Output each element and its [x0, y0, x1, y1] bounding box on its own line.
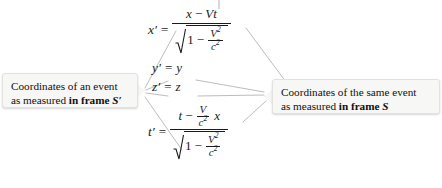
equation-x-equals: =	[160, 22, 172, 38]
callout-right: Coordinates of the same event as measure…	[272, 79, 440, 114]
callout-left-line2: as measured in frame S′	[11, 93, 130, 107]
radical-sign-icon	[173, 131, 184, 160]
equation-x-num-b: V	[205, 6, 213, 22]
equation-t-rad-den: c2	[207, 147, 220, 158]
equation-t-radical: 1 − V2 c2	[173, 131, 225, 160]
callout-right-line2: as measured in frame S	[281, 99, 432, 113]
equation-x-num-op: −	[192, 6, 205, 22]
equation-t-num-fraction: V c2	[197, 104, 210, 128]
equation-x-radical: 1 − V2 c2	[175, 25, 227, 54]
equation-z-rhs: z	[176, 79, 181, 95]
equation-t-num-frac-den-exp: 2	[203, 114, 207, 123]
equation-t-rad-num: V2	[206, 134, 220, 145]
equation-t-rad-num-exp: 2	[215, 131, 219, 140]
equation-x-prime: x′ = x − Vt	[148, 6, 298, 54]
equation-x-rad-fraction: V2 c2	[208, 28, 222, 52]
equation-x-rad-den-exp: 2	[216, 38, 220, 47]
equation-t-denominator: 1 − V2 c2	[170, 131, 228, 160]
lorentz-transformation-diagram: Coordinates of an event as measured in f…	[0, 0, 442, 188]
equation-t-num-frac-num: V	[197, 104, 208, 115]
equation-x-fraction-bar	[172, 23, 230, 24]
equation-t-num-frac-den: c2	[197, 117, 210, 128]
equation-t-lhs: t′	[148, 124, 158, 140]
equation-t-num-op: −	[182, 108, 195, 124]
equation-x-rad-num-exp: 2	[217, 25, 221, 34]
callout-right-line2-bold: in frame	[339, 100, 383, 112]
callout-right-frame-symbol: S	[382, 100, 388, 112]
equation-t-fraction-bar	[170, 129, 228, 130]
equation-x-fraction: x − Vt 1 −	[172, 6, 230, 54]
equation-t-rad-op: −	[192, 138, 205, 154]
equation-y-rhs: y	[176, 60, 182, 76]
equation-x-lhs: x′	[148, 22, 160, 38]
callout-left-line1: Coordinates of an event	[11, 79, 130, 93]
callout-left-frame-symbol: S′	[112, 94, 121, 106]
equation-z-lhs: z′	[152, 79, 163, 95]
equation-t-equals: =	[158, 124, 170, 140]
equation-t-num-trailing: x	[210, 108, 220, 124]
callout-right-line1: Coordinates of the same event	[281, 85, 432, 99]
callout-left-line2-prefix: as measured	[11, 94, 69, 106]
equation-x-rad-op: −	[194, 32, 207, 48]
callout-left: Coordinates of an event as measured in f…	[2, 73, 138, 108]
equation-x-rad-num: V2	[208, 28, 222, 39]
equation-y-lhs: y′	[152, 60, 164, 76]
equation-y-prime: y′ = y	[152, 60, 298, 76]
equation-y-equals: =	[164, 60, 176, 76]
callout-left-line2-bold: in frame	[69, 94, 113, 106]
equation-z-equals: =	[163, 79, 175, 95]
equation-x-denominator: 1 − V2 c2	[172, 25, 230, 54]
equation-x-num-c: t	[213, 6, 217, 22]
equation-x-numerator: x − Vt	[183, 6, 220, 22]
equation-t-rad-den-exp: 2	[214, 144, 218, 153]
equation-x-radicand: 1 − V2 c2	[186, 25, 227, 54]
equation-t-numerator: t − V c2 x	[176, 104, 223, 128]
callout-right-line2-prefix: as measured	[281, 100, 339, 112]
equation-x-rad-den: c2	[209, 41, 222, 52]
equation-t-radicand: 1 − V2 c2	[184, 131, 225, 160]
radical-sign-icon	[175, 25, 186, 54]
equation-t-fraction: t − V c2 x	[170, 104, 228, 160]
equation-t-rad-fraction: V2 c2	[206, 134, 220, 158]
